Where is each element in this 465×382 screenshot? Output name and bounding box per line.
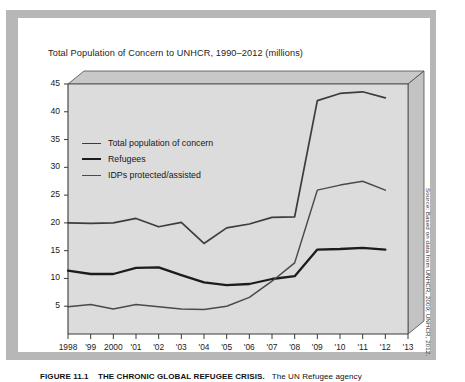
legend-item-label: Total population of concern — [108, 138, 213, 148]
chart-svg — [46, 62, 446, 362]
caption-separator-2 — [267, 372, 269, 381]
y-axis-tick-label: 15 — [42, 245, 60, 255]
y-axis-tick-label: 10 — [42, 272, 60, 282]
x-axis-tick-label: '13 — [391, 342, 425, 352]
caption-text: The UN Refugee agency — [272, 372, 362, 381]
y-axis-tick-label: 25 — [42, 189, 60, 199]
y-axis-tick-label: 45 — [42, 78, 60, 88]
legend-line-swatch — [82, 143, 101, 144]
source-note: Source: Based on data from UNHCR, 2009; … — [425, 188, 432, 356]
legend-item-label: Refugees — [108, 154, 146, 164]
y-axis-tick-label: 20 — [42, 217, 60, 227]
y-axis-tick-label: 5 — [42, 300, 60, 310]
y-axis-tick-label: 35 — [42, 134, 60, 144]
legend-item-label: IDPs protected/assisted — [108, 170, 201, 180]
legend-item: IDPs protected/assisted — [82, 167, 213, 183]
chart-legend: Total population of concernRefugeesIDPs … — [82, 135, 213, 183]
figure-page: Total Population of Concern to UNHCR, 19… — [0, 0, 465, 382]
legend-item: Refugees — [82, 151, 213, 167]
y-axis-tick-label: 40 — [42, 106, 60, 116]
caption-figure-number: FIGURE 11.1 — [40, 372, 89, 381]
plot-top-face — [68, 71, 424, 84]
chart-title: Total Population of Concern to UNHCR, 19… — [48, 48, 303, 58]
legend-line-swatch — [82, 158, 101, 160]
chart-plot-area: 51015202530354045 1998'992000'01'02'03'0… — [46, 62, 446, 362]
figure-panel: Total Population of Concern to UNHCR, 19… — [18, 18, 430, 352]
legend-item: Total population of concern — [82, 135, 213, 151]
legend-line-swatch — [82, 175, 101, 176]
caption-separator — [91, 372, 96, 381]
y-axis-tick-label: 30 — [42, 161, 60, 171]
figure-caption: FIGURE 11.1 THE CHRONIC GLOBAL REFUGEE C… — [40, 372, 362, 381]
caption-heading: THE CHRONIC GLOBAL REFUGEE CRISIS. — [98, 372, 265, 381]
plot-right-face — [408, 71, 424, 334]
plot-front-face — [68, 84, 408, 334]
